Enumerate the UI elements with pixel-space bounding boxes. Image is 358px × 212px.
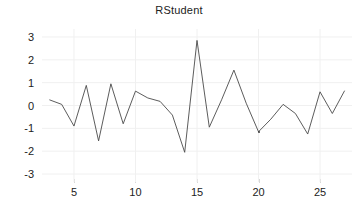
chart-title: RStudent — [0, 4, 358, 16]
data-series-rstudent — [42, 29, 352, 182]
plot-area — [42, 29, 352, 182]
y-tick-label: 2 — [2, 54, 34, 66]
y-tick-label: -3 — [2, 168, 34, 180]
x-tick-label: 5 — [59, 186, 89, 198]
y-tick-label: 1 — [2, 77, 34, 89]
y-tick-label: -1 — [2, 122, 34, 134]
data-point-marker — [258, 131, 260, 133]
x-tick-label: 20 — [244, 186, 274, 198]
x-tick-label: 25 — [305, 186, 335, 198]
y-tick-label: 0 — [2, 100, 34, 112]
x-tick-label: 10 — [120, 186, 150, 198]
x-tick-label: 15 — [182, 186, 212, 198]
y-tick-label: -2 — [2, 145, 34, 157]
chart-figure: RStudent 3210-1-2-3 510152025 — [0, 0, 358, 212]
y-tick-label: 3 — [2, 31, 34, 43]
